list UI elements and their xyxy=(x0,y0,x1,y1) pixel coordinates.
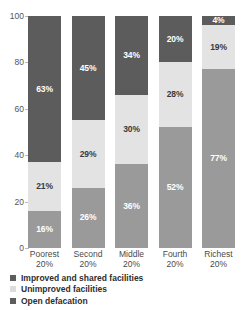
bar-column[interactable]: 63%21%16% xyxy=(28,16,61,248)
legend-swatch-icon xyxy=(10,275,16,281)
stacked-bar-chart: 020406080100 63%21%16%45%29%26%34%30%36%… xyxy=(0,0,241,310)
bar-segment[interactable]: 77% xyxy=(202,69,235,248)
category-name: Richest xyxy=(204,249,232,259)
bar-segment-value-label: 20% xyxy=(167,35,184,44)
bar-segment[interactable]: 28% xyxy=(159,62,192,127)
x-axis-category-labels: Poorest20%Second20%Middle20%Fourth20%Ric… xyxy=(28,250,235,269)
legend-label: Improved and shared facilities xyxy=(21,273,143,283)
y-axis-tick-label: 40 xyxy=(0,151,24,159)
category-share: 20% xyxy=(28,260,61,270)
bar-segment-value-label: 34% xyxy=(123,51,140,60)
bar-segment[interactable]: 19% xyxy=(202,25,235,69)
x-axis-category-label: Fourth20% xyxy=(159,250,192,269)
bar-segment-value-label: 26% xyxy=(80,213,97,222)
bar-segment[interactable]: 36% xyxy=(115,164,148,248)
category-share: 20% xyxy=(202,260,235,270)
category-share: 20% xyxy=(159,260,192,270)
bar-column[interactable]: 34%30%36% xyxy=(115,16,148,248)
bar-segment-value-label: 28% xyxy=(167,90,184,99)
bar-segment-value-label: 16% xyxy=(36,225,53,234)
y-axis-tick-label: 20 xyxy=(0,198,24,206)
bar-segment-value-label: 45% xyxy=(80,64,97,73)
legend-item[interactable]: Open defacation xyxy=(10,295,235,306)
bar-segment[interactable]: 16% xyxy=(28,211,61,248)
bar-segment[interactable]: 20% xyxy=(159,16,192,62)
bar-segment[interactable]: 21% xyxy=(28,162,61,211)
legend-item[interactable]: Unimproved facilities xyxy=(10,284,235,295)
bar-segment-value-label: 21% xyxy=(36,182,53,191)
bar-segment-value-label: 77% xyxy=(210,154,227,163)
x-axis-category-label: Poorest20% xyxy=(28,250,61,269)
category-share: 20% xyxy=(115,260,148,270)
legend-item[interactable]: Improved and shared facilities xyxy=(10,272,235,283)
y-axis-tick-label: 80 xyxy=(0,58,24,66)
bar-segment[interactable]: 26% xyxy=(72,188,105,248)
y-axis-tick-mark xyxy=(25,248,28,249)
bar-segment[interactable]: 29% xyxy=(72,120,105,187)
legend-label: Unimproved facilities xyxy=(21,284,107,294)
bar-segment-value-label: 4% xyxy=(212,16,224,25)
bar-segment-value-label: 36% xyxy=(123,202,140,211)
x-axis-category-label: Middle20% xyxy=(115,250,148,269)
bar-column[interactable]: 4%19%77% xyxy=(202,16,235,248)
bar-segment-value-label: 52% xyxy=(167,183,184,192)
bar-segment-value-label: 19% xyxy=(210,43,227,52)
bar-segment[interactable]: 30% xyxy=(115,95,148,165)
bar-segment[interactable]: 45% xyxy=(72,16,105,120)
y-axis-tick-label: 60 xyxy=(0,105,24,113)
bar-segment-value-label: 29% xyxy=(80,150,97,159)
x-axis-category-label: Second20% xyxy=(72,250,105,269)
category-name: Middle xyxy=(119,249,144,259)
category-share: 20% xyxy=(72,260,105,270)
bar-segment-value-label: 30% xyxy=(123,125,140,134)
y-axis-tick-label: 100 xyxy=(0,12,24,20)
bar-column[interactable]: 45%29%26% xyxy=(72,16,105,248)
category-name: Fourth xyxy=(163,249,188,259)
bar-group: 63%21%16%45%29%26%34%30%36%20%28%52%4%19… xyxy=(28,16,235,248)
legend-swatch-icon xyxy=(10,298,16,304)
x-axis-category-label: Richest20% xyxy=(202,250,235,269)
bar-column[interactable]: 20%28%52% xyxy=(159,16,192,248)
bar-segment[interactable]: 34% xyxy=(115,16,148,95)
bar-segment-value-label: 63% xyxy=(36,85,53,94)
bar-segment[interactable]: 63% xyxy=(28,16,61,162)
y-axis-tick-label: 0 xyxy=(0,244,24,252)
chart-legend: Improved and shared facilitiesUnimproved… xyxy=(10,272,235,307)
category-name: Second xyxy=(74,249,103,259)
bar-segment[interactable]: 52% xyxy=(159,127,192,248)
legend-label: Open defacation xyxy=(21,296,88,306)
legend-swatch-icon xyxy=(10,286,16,292)
category-name: Poorest xyxy=(30,249,59,259)
plot-area: 63%21%16%45%29%26%34%30%36%20%28%52%4%19… xyxy=(28,16,235,248)
bar-segment[interactable]: 4% xyxy=(202,16,235,25)
